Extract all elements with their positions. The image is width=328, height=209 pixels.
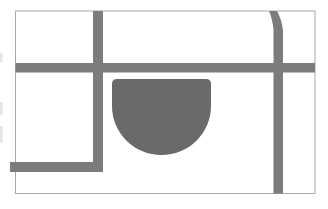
road-main-horizontal (16, 63, 316, 73)
map-canvas (0, 0, 328, 209)
map-tile (0, 0, 328, 209)
left-edge-mark-2 (0, 102, 3, 115)
left-edge-mark-1 (0, 53, 3, 62)
road-bottom-left-horizontal (10, 162, 103, 172)
left-edge-mark-3 (0, 126, 3, 143)
road-left-vertical (93, 11, 103, 172)
